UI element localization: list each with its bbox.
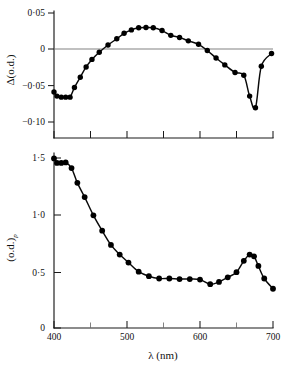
data-point	[89, 57, 94, 62]
data-point	[207, 281, 213, 287]
data-point	[136, 269, 142, 275]
top-y-tick-marks	[48, 13, 54, 122]
bottom-x-tick-label-600: 600	[193, 332, 208, 342]
data-point	[187, 276, 193, 282]
bottom-y-tick-label-3: 0	[40, 323, 45, 333]
data-point	[270, 286, 276, 292]
data-point	[259, 64, 264, 69]
data-point	[261, 276, 267, 282]
data-point	[69, 165, 75, 171]
top-y-axis-title: Δ(o.d.)	[4, 54, 17, 85]
data-point	[177, 35, 182, 40]
data-point	[126, 260, 132, 266]
data-point	[251, 253, 257, 259]
data-point	[97, 49, 102, 54]
data-point	[105, 42, 110, 47]
bottom-data-curve	[54, 158, 273, 288]
data-point	[234, 269, 240, 275]
data-point	[186, 38, 191, 43]
bottom-x-tick-label-700: 700	[266, 332, 281, 342]
data-point	[241, 258, 247, 264]
data-point	[166, 276, 172, 282]
data-point	[247, 93, 252, 98]
data-point	[222, 62, 227, 67]
data-point	[121, 31, 126, 36]
data-point	[225, 274, 231, 280]
data-point	[196, 42, 201, 47]
data-point	[83, 64, 88, 69]
data-point	[114, 36, 119, 41]
data-point	[205, 48, 210, 53]
data-point	[256, 263, 262, 269]
data-point	[216, 279, 222, 285]
data-point	[143, 25, 148, 30]
top-x-tick-marks	[54, 131, 273, 138]
data-point	[72, 85, 77, 90]
top-y-tick-label-1: 0	[40, 44, 45, 54]
bottom-data-points	[51, 156, 276, 292]
top-y-tick-label-2: −0·05	[22, 81, 45, 91]
panel-top-difference-spectrum: Δ(o.d.) 0·05 0 −0·05 −0·10	[4, 8, 274, 138]
data-point	[136, 25, 141, 30]
bottom-y-axis-title-main: (o.d.)	[4, 238, 17, 262]
data-point	[241, 72, 246, 77]
data-point	[91, 212, 97, 218]
bottom-y-tick-label-1: 1·0	[32, 210, 45, 220]
data-point	[67, 94, 72, 99]
top-y-tick-label-0: 0·05	[28, 8, 46, 18]
data-point	[253, 105, 258, 110]
top-data-points	[51, 25, 274, 111]
bottom-y-axis-title: (o.d.)р	[4, 234, 19, 262]
data-point	[159, 28, 164, 33]
data-point	[197, 277, 203, 283]
data-point	[74, 180, 80, 186]
bottom-x-axis-title: λ (nm)	[148, 349, 178, 362]
data-point	[156, 276, 162, 282]
bottom-y-axis-title-subscript: р	[11, 234, 19, 239]
data-point	[232, 70, 237, 75]
data-point	[151, 25, 156, 30]
data-point	[108, 242, 114, 248]
bottom-y-tick-label-0: 1·5	[32, 153, 45, 163]
bottom-x-tick-label-400: 400	[47, 332, 62, 342]
spectra-figure: Δ(o.d.) 0·05 0 −0·05 −0·10	[0, 0, 288, 367]
data-point	[146, 273, 152, 279]
bottom-x-tick-marks	[54, 321, 273, 328]
data-point	[82, 194, 88, 200]
data-point	[63, 159, 69, 165]
data-point	[213, 55, 218, 60]
top-y-tick-label-3: −0·10	[22, 117, 45, 127]
data-point	[78, 75, 83, 80]
data-point	[269, 51, 274, 56]
panel-bottom-absorption-spectrum: (o.d.)р 1·5 1·0 0·5 0	[4, 153, 280, 362]
bottom-y-tick-marks	[54, 158, 61, 328]
data-point	[117, 252, 123, 258]
data-point	[99, 228, 105, 234]
figure-root: Δ(o.d.) 0·05 0 −0·05 −0·10	[0, 0, 288, 367]
data-point	[129, 27, 134, 32]
data-point	[177, 276, 183, 282]
data-point	[168, 33, 173, 38]
bottom-x-tick-label-500: 500	[120, 332, 135, 342]
bottom-y-tick-label-2: 0·5	[32, 268, 45, 278]
